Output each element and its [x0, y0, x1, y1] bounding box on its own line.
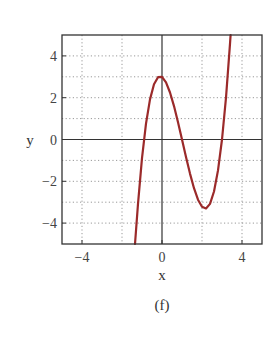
axes — [62, 35, 262, 244]
cubic-function-plot: −404420−2−4 x y (f) — [0, 0, 279, 337]
y-axis-label: y — [26, 132, 34, 148]
y-tick-label: 4 — [50, 49, 57, 64]
x-tick-label: −4 — [75, 250, 90, 265]
x-tick-label: 0 — [159, 250, 166, 265]
figure-caption: (f) — [155, 297, 170, 314]
x-tick-label: 4 — [239, 250, 246, 265]
y-tick-label: 0 — [50, 133, 57, 148]
tick-labels: −404420−2−4 — [42, 49, 245, 265]
y-tick-label: 2 — [50, 91, 57, 106]
x-axis-label: x — [158, 267, 166, 283]
y-tick-label: −4 — [42, 216, 57, 231]
y-tick-label: −2 — [42, 174, 57, 189]
